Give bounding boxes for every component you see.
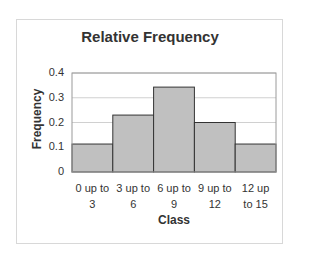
x-tick-line: 3 [71,196,113,212]
x-tick-label: 6 up to9 [153,180,195,212]
histogram-bar [72,144,113,172]
x-tick-line: 3 up to [112,180,154,196]
x-tick-line: 0 up to [71,180,113,196]
x-tick-label: 3 up to6 [112,180,154,212]
x-tick-line: to 15 [235,196,277,212]
x-tick-line: 9 [153,196,195,212]
y-tick-label: 0.2 [38,116,64,128]
x-tick-line: 12 up [235,180,277,196]
histogram-bar [113,115,154,172]
x-tick-label: 0 up to3 [71,180,113,212]
histogram-bar [154,87,195,172]
y-tick-label: 0 [38,165,64,177]
y-tick-label: 0.1 [38,140,64,152]
x-tick-line: 12 [194,196,236,212]
bars [72,87,276,172]
x-tick-line: 6 [112,196,154,212]
y-tick-label: 0.4 [38,66,64,78]
histogram-bar [235,144,276,172]
histogram-bar [194,123,235,173]
y-tick-label: 0.3 [38,91,64,103]
x-tick-line: 9 up to [194,180,236,196]
x-tick-label: 12 upto 15 [235,180,277,212]
x-axis-label: Class [72,213,276,227]
x-tick-line: 6 up to [153,180,195,196]
x-tick-label: 9 up to12 [194,180,236,212]
